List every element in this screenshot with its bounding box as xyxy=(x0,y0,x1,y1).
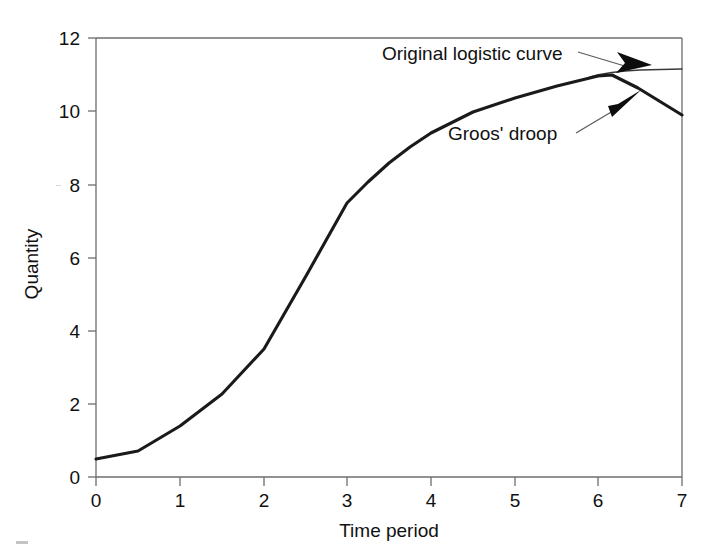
annotation-original-logistic-label: Original logistic curve xyxy=(382,43,563,64)
y-axis-ticks xyxy=(88,38,96,477)
x-tick-label-4: 4 xyxy=(426,490,437,511)
annotation-groos-droop-arrow xyxy=(608,90,641,117)
x-tick-label-0: 0 xyxy=(91,490,102,511)
artifact-speck-left xyxy=(56,185,61,186)
logistic-curve-chart: 0 2 4 6 8 10 12 0 1 2 3 4 5 6 xyxy=(0,0,719,554)
x-axis-tick-labels: 0 1 2 3 4 5 6 7 xyxy=(91,490,688,511)
series-groos-droop xyxy=(96,75,682,459)
annotation-groos-droop-label: Groos' droop xyxy=(448,123,557,144)
y-axis-title: Quantity xyxy=(21,228,42,299)
annotation-groos-droop: Groos' droop xyxy=(448,90,641,144)
y-tick-label-10: 10 xyxy=(59,101,80,122)
x-axis-title: Time period xyxy=(339,520,439,541)
y-tick-label-4: 4 xyxy=(69,321,80,342)
y-axis-tick-labels: 0 2 4 6 8 10 12 xyxy=(59,28,81,488)
artifact-speck-bottom-left xyxy=(16,541,28,544)
x-axis-ticks xyxy=(96,477,682,486)
plot-frame xyxy=(96,38,682,477)
chart-figure: 0 2 4 6 8 10 12 0 1 2 3 4 5 6 xyxy=(0,0,719,554)
y-tick-label-2: 2 xyxy=(69,394,80,415)
x-tick-label-1: 1 xyxy=(175,490,186,511)
annotation-original-logistic: Original logistic curve xyxy=(382,43,652,73)
y-tick-label-6: 6 xyxy=(69,248,80,269)
x-tick-label-3: 3 xyxy=(342,490,353,511)
y-tick-label-12: 12 xyxy=(59,28,80,49)
x-tick-label-6: 6 xyxy=(593,490,604,511)
x-tick-label-7: 7 xyxy=(677,490,688,511)
y-tick-label-0: 0 xyxy=(69,467,80,488)
x-tick-label-5: 5 xyxy=(510,490,521,511)
x-tick-label-2: 2 xyxy=(259,490,270,511)
y-tick-label-8: 8 xyxy=(69,175,80,196)
